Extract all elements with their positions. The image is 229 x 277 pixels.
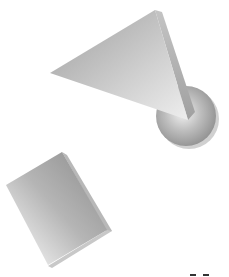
corner-mark xyxy=(190,274,209,276)
shapes-illustration xyxy=(0,0,229,277)
triangle-shape xyxy=(50,10,195,120)
square-shape xyxy=(6,152,112,268)
